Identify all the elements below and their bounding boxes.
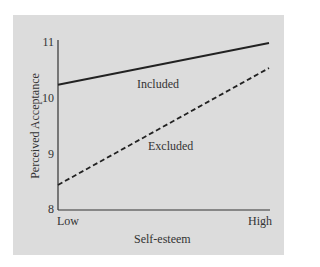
y-tick-11: 11	[34, 36, 54, 48]
series-label-excluded: Excluded	[148, 140, 193, 152]
x-tick-high: High	[248, 215, 272, 227]
x-axis-label: Self-esteem	[134, 233, 191, 245]
series-label-included: Included	[137, 78, 179, 90]
y-tick-8: 8	[34, 203, 54, 215]
y-axis-label: Perceived Acceptance	[29, 61, 41, 191]
x-tick-low: Low	[57, 215, 79, 227]
